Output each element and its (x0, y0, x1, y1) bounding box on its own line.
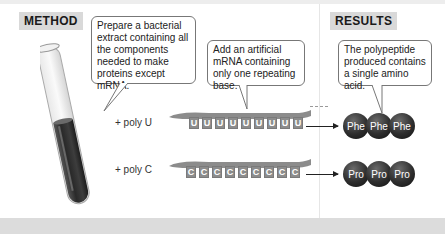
prepare-extract-callout: Prepare a bacterial extract containing a… (91, 16, 196, 84)
base-u: U (215, 117, 225, 129)
method-label: METHOD (19, 12, 83, 30)
base-c: C (225, 166, 235, 178)
base-u: U (267, 117, 277, 129)
base-u: U (241, 117, 251, 129)
mrna-bases-c: C C C C C C C C C (186, 166, 300, 178)
mrna-bases-u: U U U U U U U U U (189, 117, 303, 129)
add-mrna-callout: Add an artificial mRNA containing only o… (207, 40, 305, 86)
callout-tail (235, 85, 255, 111)
method-results-divider (319, 4, 320, 218)
base-u: U (189, 117, 199, 129)
arrow-icon (306, 174, 338, 175)
callout-tail (100, 83, 130, 113)
poly-u-label: + poly U (115, 117, 152, 128)
base-u: U (228, 117, 238, 129)
base-u: U (202, 117, 212, 129)
poly-c-label: + poly C (115, 164, 152, 175)
polypeptide-phe: Phe Phe Phe (343, 113, 412, 139)
base-c: C (264, 166, 274, 178)
single-amino-acid-callout: The polypeptide produced contains a sing… (338, 40, 432, 86)
base-u: U (280, 117, 290, 129)
base-c: C (251, 166, 261, 178)
base-u: U (254, 117, 264, 129)
callout-tail (370, 85, 390, 115)
top-border (0, 0, 445, 4)
base-c: C (277, 166, 287, 178)
base-c: C (186, 166, 196, 178)
dashed-mark (310, 106, 328, 108)
amino-acid-phe: Phe (389, 113, 415, 139)
base-u: U (293, 117, 303, 129)
results-label: RESULTS (330, 12, 397, 30)
base-c: C (199, 166, 209, 178)
polypeptide-pro: Pro Pro Pro (343, 161, 412, 187)
bottom-border (0, 218, 445, 234)
base-c: C (238, 166, 248, 178)
base-c: C (290, 166, 300, 178)
base-c: C (212, 166, 222, 178)
arrow-icon (306, 126, 338, 127)
amino-acid-pro: Pro (389, 161, 415, 187)
